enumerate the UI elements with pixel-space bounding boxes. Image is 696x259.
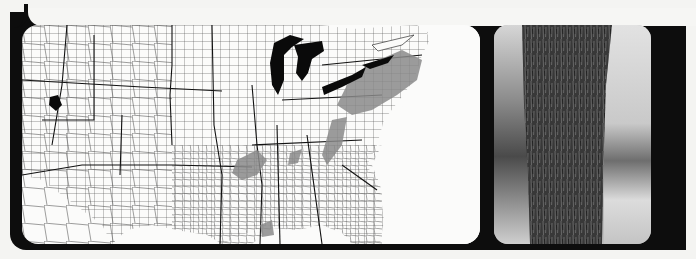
frame-top-tab — [28, 8, 696, 26]
range-map-graphic — [22, 25, 480, 244]
figure-frame — [10, 12, 686, 250]
bark-photo-image — [494, 25, 651, 244]
bark-photo — [494, 25, 651, 244]
frame-corner — [4, 4, 28, 28]
range-map — [22, 25, 480, 244]
